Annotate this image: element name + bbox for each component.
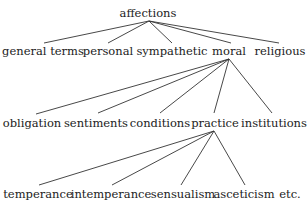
edge-moral-institutions — [229, 59, 272, 113]
edge-moral-obligation — [36, 59, 229, 114]
labels: affections general termspersonalsympathe… — [2, 6, 307, 201]
edge-practice-sensualism — [181, 131, 214, 185]
tree-svg: affections general termspersonalsympathe… — [0, 0, 308, 211]
node-intemperance: intemperance — [71, 187, 152, 201]
tree-diagram: affections general termspersonalsympathe… — [0, 0, 308, 211]
node-conditions: conditions — [130, 116, 190, 130]
node-institutions: institutions — [241, 116, 307, 130]
node-obligation: obligation — [3, 116, 62, 130]
node-sentiments: sentiments — [64, 116, 128, 130]
edge-moral-sentiments — [98, 59, 229, 113]
node-practice: practice — [191, 116, 239, 130]
node-asceticism: asceticism — [213, 187, 274, 201]
node-moral: moral — [212, 44, 246, 58]
edge-affections-personal — [108, 21, 149, 43]
node-religious: religious — [255, 44, 306, 58]
node-general-terms: general terms — [2, 44, 84, 58]
node-temperance: temperance — [3, 187, 73, 201]
edge-moral-practice — [214, 59, 229, 113]
node-etc: etc. — [279, 187, 301, 201]
node-sympathetic: sympathetic — [136, 44, 207, 58]
node-sensualism: sensualism — [151, 187, 216, 201]
edge-practice-asceticism — [214, 131, 245, 185]
edge-affections-moral — [149, 21, 231, 43]
edge-moral-conditions — [160, 59, 229, 113]
node-personal: personal — [83, 44, 134, 58]
edge-affections-general-terms — [44, 21, 149, 43]
node-root: affections — [120, 6, 177, 20]
